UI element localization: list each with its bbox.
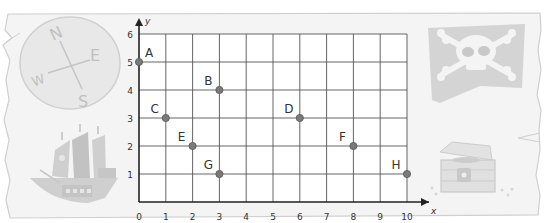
point-label: A: [145, 46, 154, 60]
point-label: E: [178, 130, 186, 144]
x-tick-label: 4: [243, 212, 249, 222]
treasure-map-coordinate-grid: N E S W: [0, 0, 550, 223]
y-tick-label: 6: [127, 30, 133, 40]
point-label: D: [284, 102, 293, 116]
x-tick-label: 9: [377, 212, 383, 222]
point-label: F: [339, 130, 346, 144]
x-tick-label: 8: [351, 212, 357, 222]
x-tick-label: 6: [297, 212, 303, 222]
y-tick-label: 2: [127, 142, 133, 152]
x-tick-label: 3: [217, 212, 223, 222]
compass-letter-e: E: [90, 46, 100, 65]
x-tick-label: 0: [136, 212, 142, 222]
x-tick-label: 7: [324, 212, 330, 222]
x-tick-label: 5: [270, 212, 276, 222]
y-tick-label: 5: [127, 58, 133, 68]
point-label: C: [151, 102, 159, 116]
y-axis-label: y: [144, 16, 151, 26]
x-tick-label: 10: [401, 212, 413, 222]
x-axis-label: x: [430, 206, 437, 216]
x-tick-label: 1: [163, 212, 169, 222]
y-tick-label: 3: [127, 114, 133, 124]
point-label: B: [204, 74, 212, 88]
y-tick-label: 1: [127, 170, 133, 180]
point-label: G: [204, 158, 213, 172]
point-label: H: [391, 158, 400, 172]
coordinate-grid: [139, 34, 407, 202]
x-tick-label: 2: [190, 212, 196, 222]
y-tick-label: 4: [127, 86, 133, 96]
compass-letter-s: S: [78, 92, 88, 111]
